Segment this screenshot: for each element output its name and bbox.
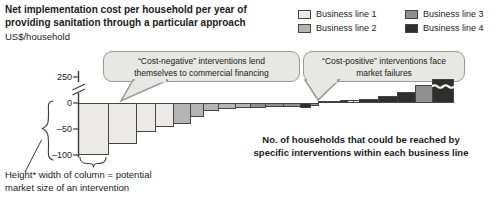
market-size-note-line1: Height* width of column = potential (5, 169, 152, 182)
width-brace (80, 158, 106, 167)
market-size-note-line2: market size of an intervention (5, 182, 152, 195)
callout-cost-negative: “Cost-negative” interventions lend thems… (103, 51, 300, 82)
bar-business-line-2 (203, 103, 219, 111)
bar-business-line-4 (359, 99, 379, 103)
bar-business-line-2 (218, 103, 236, 109)
bar-business-line-3 (265, 103, 284, 107)
x-axis-note: No. of households that could be reached … (252, 133, 470, 159)
bar-business-line-4 (432, 79, 454, 103)
bar-business-line-1 (108, 103, 137, 144)
legend-swatch-business-line-4 (405, 24, 418, 33)
legend-label: Business line 3 (423, 9, 484, 19)
bar-business-line-1 (136, 103, 156, 132)
legend-label: Business line 4 (423, 23, 484, 33)
y-tick-label--50: –50 (40, 124, 72, 135)
bar-business-line-2 (190, 103, 204, 117)
callout-cost-positive-line2: market failures (304, 68, 464, 80)
chart-title-line2: providing sanitation through a particula… (5, 17, 247, 30)
chart-figure: Net implementation cost per household pe… (0, 0, 500, 203)
callout-cost-positive: “Cost-positive” interventions face marke… (303, 51, 465, 82)
bar-business-line-1 (78, 103, 109, 155)
y-axis-unit-label: US$/household (5, 31, 70, 42)
callout-cost-negative-line2: themselves to commercial financing (104, 68, 299, 80)
x-axis-note-line2: specific interventions within each busin… (252, 146, 470, 159)
legend-item-business-line-4: Business line 4 (405, 23, 484, 33)
y-tick-label--100: –100 (40, 150, 72, 161)
bar-business-line-1 (155, 103, 174, 127)
callout-cost-negative-tail (121, 80, 168, 101)
bar-business-line-3 (415, 85, 433, 103)
y-tick-label-0: 0 (40, 98, 72, 109)
bar-business-line-4 (378, 96, 398, 103)
legend-item-business-line-1: Business line 1 (298, 9, 377, 19)
legend-swatch-business-line-1 (298, 10, 311, 19)
bar-business-line-2 (173, 103, 191, 124)
legend-swatch-business-line-3 (405, 10, 418, 19)
callout-cost-negative-line1: “Cost-negative” interventions lend (104, 56, 299, 68)
bar-truncation-squiggle (432, 84, 454, 89)
bar-business-line-3 (310, 103, 319, 106)
legend-item-business-line-3: Business line 3 (405, 9, 484, 19)
chart-title-line1: Net implementation cost per household pe… (5, 4, 247, 17)
bar-business-line-3 (250, 103, 266, 108)
market-size-note: Height* width of column = potential mark… (5, 169, 152, 194)
callout-cost-positive-line1: “Cost-positive” interventions face (304, 56, 464, 68)
chart-title: Net implementation cost per household pe… (5, 4, 247, 29)
x-axis-note-line1: No. of households that could be reached … (252, 133, 470, 146)
legend-label: Business line 1 (316, 9, 377, 19)
bar-business-line-4 (397, 92, 416, 103)
legend-label: Business line 2 (316, 23, 377, 33)
legend-swatch-business-line-2 (298, 24, 311, 33)
y-axis-break-slash1 (73, 84, 86, 90)
bar-business-line-3 (283, 103, 301, 107)
legend-item-business-line-2: Business line 2 (298, 23, 377, 33)
y-axis-break-slash2 (73, 89, 86, 95)
y-axis-break-gap (72, 82, 85, 93)
bar-business-line-4 (323, 101, 341, 104)
bar-business-line-2 (235, 103, 251, 108)
y-tick-label-250: 250 (40, 72, 72, 83)
callout-cost-positive-tail (305, 80, 339, 100)
